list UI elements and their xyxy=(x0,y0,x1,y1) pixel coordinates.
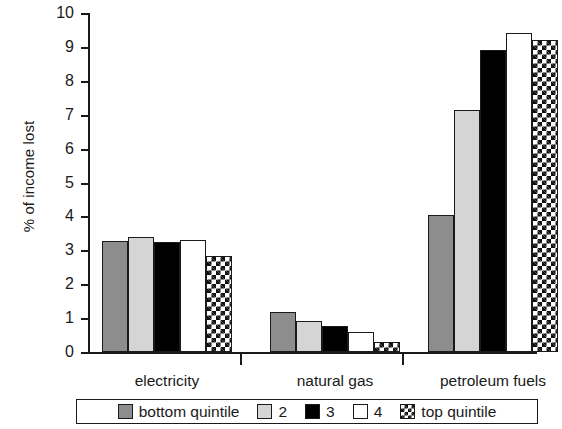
legend-swatch-icon xyxy=(400,404,415,419)
plot-area: 012345678910 electricitynatural gaspetro… xyxy=(88,13,537,353)
legend-item-label: 4 xyxy=(374,403,383,421)
bar xyxy=(532,40,558,352)
bar xyxy=(154,242,180,352)
y-axis-tick-label: 4 xyxy=(44,206,74,225)
x-axis-category-label: electricity xyxy=(87,371,247,391)
y-axis-tick-label: 9 xyxy=(44,37,74,56)
legend-swatch-icon xyxy=(118,404,133,419)
y-axis-tick-label: 1 xyxy=(44,308,74,327)
bar xyxy=(428,215,454,352)
y-axis-tick-label: 7 xyxy=(44,105,74,124)
y-axis-tick-label: 3 xyxy=(44,240,74,259)
bar xyxy=(102,241,128,352)
y-axis-tick: 5 xyxy=(81,183,89,185)
legend-item[interactable]: 3 xyxy=(305,403,335,421)
legend-swatch-icon xyxy=(257,404,272,419)
y-axis-tick: 2 xyxy=(81,284,89,286)
y-axis-tick-label: 10 xyxy=(44,3,74,22)
bar xyxy=(206,256,232,352)
x-axis-group-separator xyxy=(240,354,242,365)
bar xyxy=(270,312,296,352)
y-axis-tick-label: 5 xyxy=(44,173,74,192)
y-axis-tick: 1 xyxy=(81,318,89,320)
bar xyxy=(480,50,506,352)
legend-item-label: 3 xyxy=(326,403,335,421)
y-axis-tick-label: 0 xyxy=(44,342,74,361)
y-axis-tick: 6 xyxy=(81,149,89,151)
legend: bottom quintile234top quintile xyxy=(76,399,538,424)
y-axis-tick: 4 xyxy=(81,216,89,218)
y-axis-tick: 9 xyxy=(81,47,89,49)
bar xyxy=(454,110,480,352)
y-axis-tick: 0 xyxy=(81,352,89,354)
y-axis-title: % of income lost xyxy=(20,57,37,297)
bar xyxy=(128,237,154,352)
legend-item[interactable]: 2 xyxy=(257,403,287,421)
legend-item-label: top quintile xyxy=(421,403,496,421)
legend-swatch-icon xyxy=(305,404,320,419)
x-axis-line xyxy=(81,352,537,354)
bar xyxy=(506,33,532,352)
legend-item[interactable]: top quintile xyxy=(400,403,496,421)
x-axis-category-label: natural gas xyxy=(255,371,415,391)
bar xyxy=(348,332,374,352)
x-axis-category-label: petroleum fuels xyxy=(413,371,562,391)
y-axis-tick: 7 xyxy=(81,115,89,117)
legend-item[interactable]: bottom quintile xyxy=(118,403,240,421)
y-axis-tick: 8 xyxy=(81,81,89,83)
y-axis-tick-label: 6 xyxy=(44,139,74,158)
y-axis-tick: 3 xyxy=(81,250,89,252)
bar xyxy=(322,326,348,352)
legend-item-label: 2 xyxy=(278,403,287,421)
legend-item-label: bottom quintile xyxy=(139,403,240,421)
y-axis-tick-label: 8 xyxy=(44,71,74,90)
legend-item[interactable]: 4 xyxy=(353,403,383,421)
y-axis-tick: 10 xyxy=(81,13,89,15)
y-axis-tick-label: 2 xyxy=(44,274,74,293)
x-axis-group-separator xyxy=(402,354,404,365)
legend-swatch-icon xyxy=(353,404,368,419)
bar xyxy=(374,342,400,352)
bar xyxy=(180,240,206,352)
bar xyxy=(296,321,322,352)
